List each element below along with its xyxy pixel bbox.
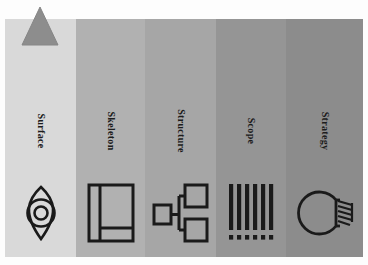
- band-structure-label: Structure: [175, 109, 186, 153]
- band-surface[interactable]: Surface: [5, 19, 76, 257]
- band-skeleton-label-area: Skeleton: [76, 90, 145, 171]
- band-skeleton-label: Skeleton: [105, 111, 116, 150]
- band-scope-label: Scope: [246, 118, 257, 145]
- eye-icon: [5, 175, 76, 251]
- wireframe-layout-icon: [76, 175, 145, 251]
- barcode-icon: [216, 175, 286, 251]
- figure-canvas: Surface Skeleton: [0, 0, 368, 265]
- sitemap-icon: [145, 175, 216, 251]
- band-strategy[interactable]: Strategy: [286, 19, 363, 257]
- band-surface-label-area: Surface: [5, 90, 76, 171]
- lightbulb-icon: [286, 175, 363, 251]
- band-structure-label-area: Structure: [145, 90, 216, 171]
- band-scope-label-area: Scope: [216, 90, 286, 171]
- band-strategy-label-area: Strategy: [286, 90, 363, 171]
- band-structure[interactable]: Structure: [145, 19, 216, 257]
- band-skeleton[interactable]: Skeleton: [76, 19, 145, 257]
- triangle-marker: [20, 5, 60, 47]
- layers-panel: Surface Skeleton: [5, 19, 363, 257]
- band-scope[interactable]: Scope: [216, 19, 286, 257]
- band-surface-label: Surface: [35, 113, 46, 148]
- band-strategy-label: Strategy: [319, 112, 330, 151]
